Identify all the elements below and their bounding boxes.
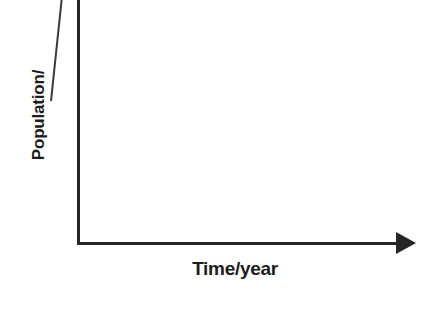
y-axis-line bbox=[77, 0, 80, 244]
plot-area bbox=[80, 0, 415, 243]
axes-figure: Population/ Time/year bbox=[0, 0, 427, 322]
x-axis-arrowhead-icon bbox=[396, 232, 416, 254]
x-axis-label: Time/year bbox=[155, 258, 315, 280]
x-axis-line bbox=[77, 242, 404, 245]
y-axis-label: Population/ bbox=[24, 52, 54, 178]
